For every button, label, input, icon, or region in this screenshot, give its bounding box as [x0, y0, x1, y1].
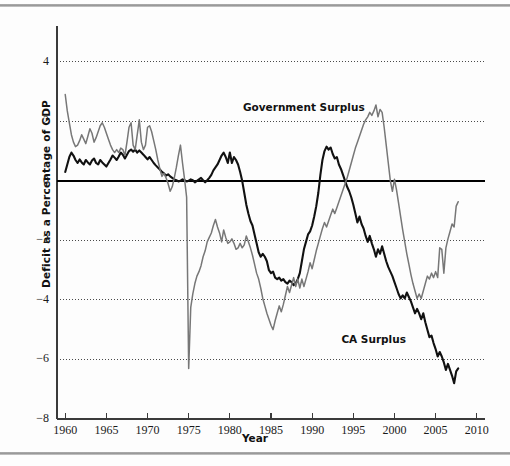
- y-tick-label: −4: [23, 292, 49, 307]
- annotation-government-surplus: Government Surplus: [243, 101, 365, 113]
- x-tick-label: 2000: [372, 423, 416, 438]
- x-tick-label: 1960: [43, 423, 87, 438]
- bottom-divider-rule: [0, 452, 510, 455]
- x-tick-label: 1980: [208, 423, 252, 438]
- chart-svg: [0, 8, 510, 452]
- y-tick-label: 2: [23, 113, 49, 128]
- x-tick-label: 2005: [414, 423, 458, 438]
- annotation-ca-surplus: CA Surplus: [341, 333, 406, 345]
- y-tick-label: −2: [23, 232, 49, 247]
- x-tick-label: 1965: [84, 423, 128, 438]
- chart-plot-area: Deficit as a Percentage of GDP Year 420−…: [0, 8, 510, 452]
- series-line-government-surplus: [65, 147, 458, 384]
- x-tick-label: 1995: [331, 423, 375, 438]
- y-tick-label: 0: [23, 173, 49, 188]
- x-tick-label: 1975: [167, 423, 211, 438]
- top-divider-rule: [0, 4, 510, 7]
- x-tick-label: 1990: [290, 423, 334, 438]
- figure-canvas: Deficit as a Percentage of GDP Year 420−…: [0, 0, 510, 466]
- x-tick-label: 2010: [455, 423, 499, 438]
- y-tick-label: −6: [23, 351, 49, 366]
- y-tick-label: 4: [23, 54, 49, 69]
- series-line-ca-surplus: [65, 95, 458, 369]
- x-tick-label: 1985: [249, 423, 293, 438]
- x-tick-label: 1970: [126, 423, 170, 438]
